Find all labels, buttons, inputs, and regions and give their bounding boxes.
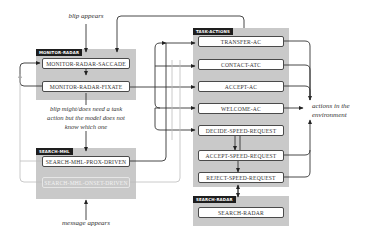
node-monitor-radar-fixate[interactable]: MONITOR-RADAR-FIXATE <box>42 81 130 92</box>
label-actions-env-line2: environment <box>312 111 374 120</box>
label-blip-needs-action-line3: know which one <box>36 122 136 131</box>
node-accept-ac[interactable]: ACCEPT-AC <box>198 81 284 92</box>
node-search-mhl-onset-driven[interactable]: SEARCH-MHL-ONSET-DRIVEN <box>42 177 130 188</box>
label-blip-needs-action-line1: blip might/does need a task <box>36 104 136 113</box>
node-welcome-ac[interactable]: WELCOME-AC <box>198 103 284 114</box>
node-monitor-radar-saccade[interactable]: MONITOR-RADAR-SACCADE <box>42 58 130 69</box>
label-message-appears: message appears <box>46 219 126 227</box>
node-transfer-ac[interactable]: TRANSFER-AC <box>198 36 284 47</box>
label-blip-needs-action-line2: action but the model does not <box>36 113 136 122</box>
label-blip-appears: blip appears <box>56 12 116 20</box>
node-decide-speed-request[interactable]: DECIDE-SPEED-REQUEST <box>198 125 284 136</box>
node-search-radar[interactable]: SEARCH-RADAR <box>198 207 284 218</box>
node-accept-speed-request[interactable]: ACCEPT-SPEED-REQUEST <box>198 150 284 161</box>
label-actions-env-line1: actions in the <box>312 102 374 111</box>
node-reject-speed-request[interactable]: REJECT-SPEED-REQUEST <box>198 172 284 183</box>
label-actions-in-environment: actions in the environment <box>312 102 374 119</box>
node-search-mhl-prox-driven[interactable]: SEARCH-MHL-PROX-DRIVEN <box>42 156 130 167</box>
label-blip-needs-action: blip might/does need a task action but t… <box>36 104 136 131</box>
node-contact-atc[interactable]: CONTACT-ATC <box>198 59 284 70</box>
